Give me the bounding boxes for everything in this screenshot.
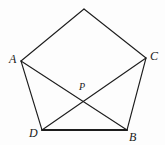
edge-apex-A [21,9,84,61]
edge-A-B [21,61,127,130]
edge-A-D [21,61,42,130]
vertex-label-p: P [79,82,85,92]
pentagon-diagram-svg [0,0,165,145]
geometry-figure: A C D B P [0,0,165,145]
vertex-label-d: D [29,127,38,139]
vertex-label-c: C [150,50,158,62]
edge-apex-C [84,9,146,58]
vertex-label-a: A [9,53,16,65]
vertex-label-b: B [129,131,136,143]
